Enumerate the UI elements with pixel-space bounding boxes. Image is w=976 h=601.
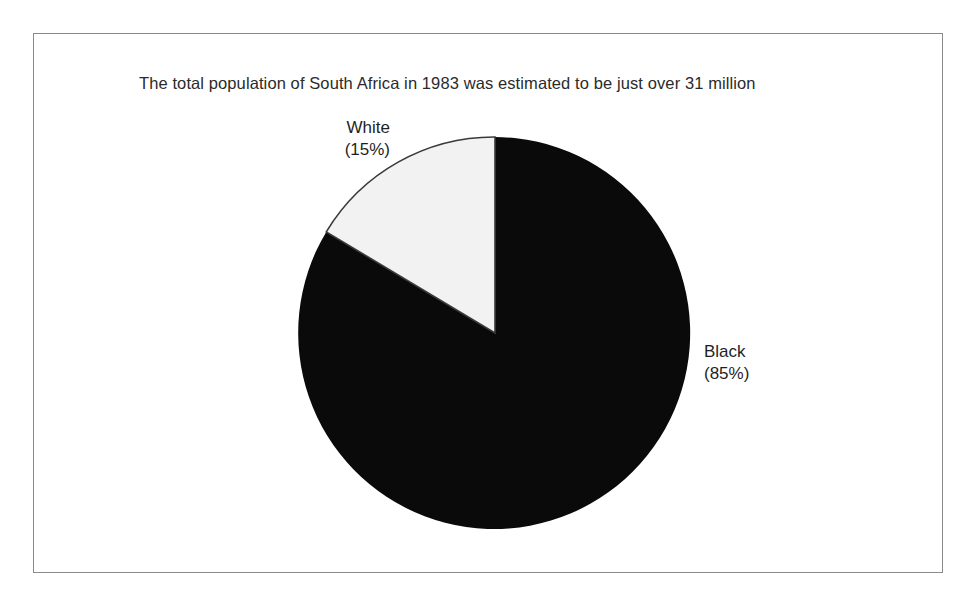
pie-label-black: Black (85%): [704, 341, 749, 386]
pie-chart: [295, 132, 695, 534]
chart-title: The total population of South Africa in …: [139, 74, 756, 93]
pie-label-white-percent: (15%): [250, 139, 390, 161]
chart-figure: The total population of South Africa in …: [0, 0, 976, 601]
pie-label-black-name: Black: [704, 342, 746, 361]
pie-label-white-name: White: [347, 118, 390, 137]
pie-label-white: White (15%): [250, 117, 390, 162]
pie-label-black-percent: (85%): [704, 363, 749, 385]
